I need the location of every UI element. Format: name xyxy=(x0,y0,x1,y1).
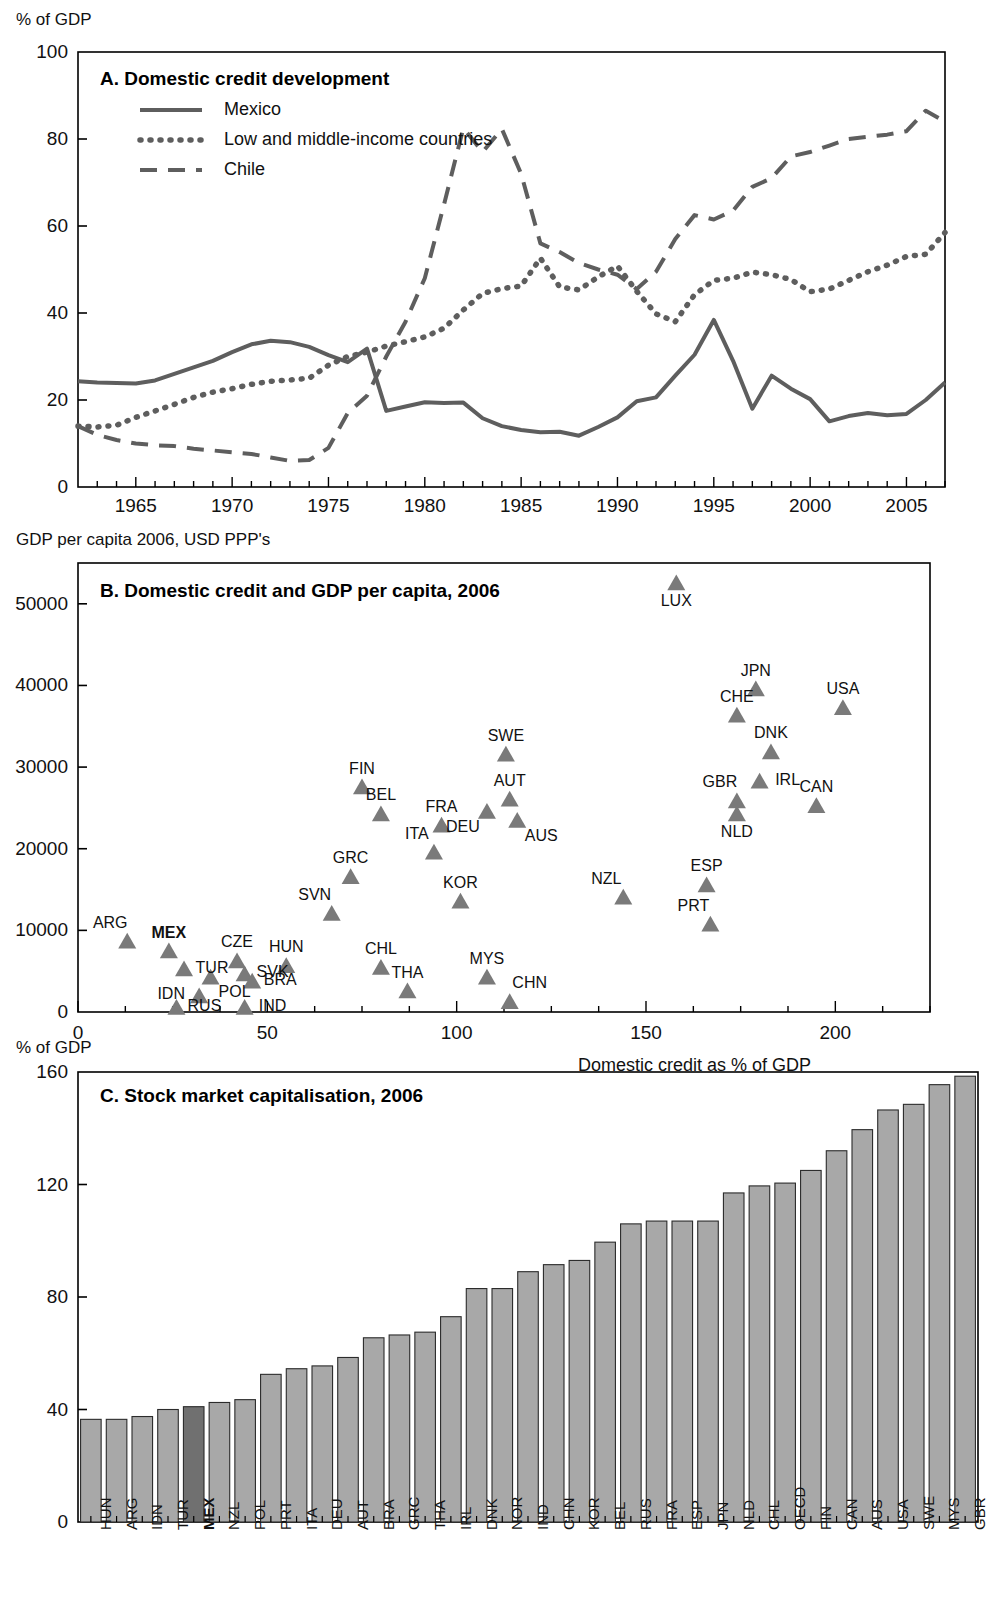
panel-c-xtick-aus: AUS xyxy=(868,1499,885,1530)
panel-c-bar-can xyxy=(826,1151,847,1522)
panel-c-bar-aut xyxy=(338,1357,359,1522)
panel-c-ytick-80: 80 xyxy=(10,1286,68,1308)
panel-c-ytick-120: 120 xyxy=(10,1174,68,1196)
panel-c-xtick-jpn: JPN xyxy=(714,1502,731,1530)
panel-c-xtick-usa: USA xyxy=(894,1499,911,1530)
panel-c-bar-gbr xyxy=(955,1076,976,1522)
panel-c-xtick-hun: HUN xyxy=(97,1498,114,1531)
panel-c-xtick-bra: BRA xyxy=(380,1499,397,1530)
panel-c-xtick-irl: IRL xyxy=(457,1507,474,1530)
panel-c-bar-esp xyxy=(672,1221,693,1522)
panel-c-xtick-kor: KOR xyxy=(585,1497,602,1530)
panel-c-bar-rus xyxy=(621,1224,642,1522)
panel-c-xtick-mex: MEX xyxy=(200,1497,217,1530)
panel-c-bar-usa xyxy=(878,1110,899,1522)
panel-c-bar-chl xyxy=(749,1186,770,1522)
panel-c-xtick-esp: ESP xyxy=(688,1500,705,1530)
panel-c-bar-fin xyxy=(801,1170,822,1522)
panel-c-xtick-ita: ITA xyxy=(303,1508,320,1530)
panel-c-bar-kor xyxy=(569,1260,590,1522)
panel-c-ytick-160: 160 xyxy=(10,1061,68,1083)
panel-c-xtick-nld: NLD xyxy=(740,1500,757,1530)
panel-c-xtick-deu: DEU xyxy=(328,1498,345,1530)
panel-c-bar-nld xyxy=(723,1193,744,1522)
panel-c-xtick-tur: TUR xyxy=(174,1499,191,1530)
panel-c-xtick-ind: IND xyxy=(534,1504,551,1530)
panel-c-xtick-arg: ARG xyxy=(123,1497,140,1530)
panel-c-bar-bel xyxy=(595,1242,616,1522)
panel-c-xtick-can: CAN xyxy=(843,1498,860,1530)
panel-c-xtick-prt: PRT xyxy=(277,1500,294,1530)
panel-c-xtick-dnk: DNK xyxy=(483,1498,500,1530)
panel-c-bar-ita xyxy=(286,1369,307,1522)
panel-c-xtick-mys: MYS xyxy=(945,1497,962,1530)
panel-c-xtick-fra: FRA xyxy=(663,1500,680,1530)
panel-c-bar-fra xyxy=(646,1221,667,1522)
panel-c-xtick-rus: RUS xyxy=(637,1498,654,1530)
panel-c-bar-bra xyxy=(363,1338,384,1522)
panel-c-xtick-chl: CHL xyxy=(765,1500,782,1530)
panel-c-xtick-bel: BEL xyxy=(611,1502,628,1530)
panel-c-xtick-nor: NOR xyxy=(508,1497,525,1530)
panel-c-bar-nor xyxy=(492,1289,513,1522)
panel-c-bar-irl xyxy=(441,1317,462,1522)
panel-c-xtick-tha: THA xyxy=(431,1500,448,1530)
panel-c-xtick-pol: POL xyxy=(251,1500,268,1530)
panel-c-ytick-0: 0 xyxy=(10,1511,68,1533)
panel-c-bar-grc xyxy=(389,1335,410,1522)
panel-c-bar-tha xyxy=(415,1332,436,1522)
panel-c-xtick-chn: CHN xyxy=(560,1498,577,1531)
panel-c-bar-ind xyxy=(518,1272,539,1522)
panel-c-xtick-aut: AUT xyxy=(354,1500,371,1530)
panel-c-xtick-swe: SWE xyxy=(920,1496,937,1530)
panel-c-xtick-nzl: NZL xyxy=(225,1502,242,1530)
panel-c-xtick-oecd: OECD xyxy=(791,1487,808,1530)
panel-c-bar-mys xyxy=(929,1085,950,1522)
panel-c-xtick-fin: FIN xyxy=(817,1506,834,1530)
panel-c-ytick-40: 40 xyxy=(10,1399,68,1421)
panel-c-xtick-idn: IDN xyxy=(148,1504,165,1530)
panel-c-bar-aus xyxy=(852,1130,873,1522)
panel-c-xtick-grc: GRC xyxy=(405,1497,422,1530)
panel-c-bar-dnk xyxy=(466,1289,487,1522)
panel-c-bar-jpn xyxy=(698,1221,719,1522)
chart-page: % of GDP A. Domestic credit development … xyxy=(0,0,991,1608)
panel-c-bar-chn xyxy=(543,1265,564,1522)
panel-c-plot xyxy=(0,0,991,1608)
panel-c-bar-oecd xyxy=(775,1183,796,1522)
panel-c-xtick-gbr: GBR xyxy=(971,1497,988,1530)
panel-c-bar-swe xyxy=(903,1104,924,1522)
